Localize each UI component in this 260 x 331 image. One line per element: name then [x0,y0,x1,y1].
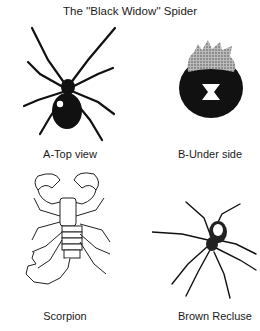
caption-b: B-Under side [165,148,255,160]
black-widow-top-illustration [10,22,120,142]
caption-a: A-Top view [30,148,110,160]
figure-title: The ''Black Widow'' Spider [0,5,260,17]
scorpion-illustration [10,168,125,298]
brown-recluse-illustration [152,200,260,300]
caption-d: Brown Recluse [170,310,260,322]
caption-c: Scorpion [30,310,100,322]
black-widow-underside-illustration [176,40,246,120]
